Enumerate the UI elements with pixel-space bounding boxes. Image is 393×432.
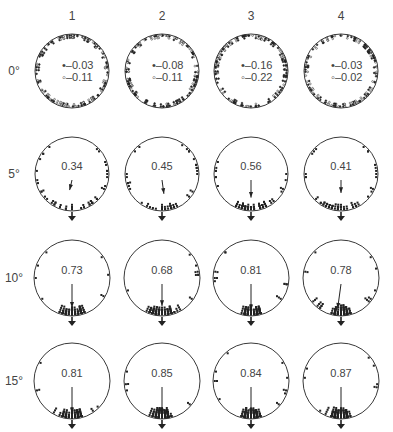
mean-vector-arrow-icon — [70, 408, 74, 414]
circular-plot: 0.87 — [303, 343, 379, 429]
mean-vector-length: 0.73 — [61, 264, 82, 276]
filled-mean-vector: •–0.08 — [152, 59, 183, 71]
mean-vector-arrow-icon — [160, 300, 164, 306]
mean-vector-arrow-icon — [249, 305, 253, 311]
mean-vector-arrow-icon — [339, 409, 343, 415]
circular-distribution-grid: •–0.03◦–0.11•–0.08◦–0.11•–0.16◦–0.22•–0.… — [0, 0, 393, 432]
direction-marker-icon — [337, 321, 345, 326]
mean-vector-arrow-icon — [161, 188, 165, 194]
mean-vector-length: 0.41 — [330, 160, 351, 172]
mean-vector-length: 0.81 — [240, 264, 261, 276]
direction-marker-icon — [68, 216, 76, 221]
filled-mean-vector: •–0.03 — [331, 59, 362, 71]
open-mean-vector: ◦–0.22 — [241, 71, 272, 83]
circular-plot: 0.78 — [303, 240, 379, 326]
circular-plot: 0.68 — [124, 240, 200, 326]
mean-vector-length: 0.85 — [151, 367, 172, 379]
mean-vector-length: 0.84 — [240, 367, 261, 379]
direction-marker-icon — [247, 321, 255, 326]
circular-plot: 0.34 — [35, 137, 109, 221]
mean-vector-arrow-icon — [339, 187, 343, 193]
open-mean-vector: ◦–0.02 — [331, 71, 362, 83]
mean-vector-length: 0.81 — [61, 367, 82, 379]
mean-vector-length: 0.68 — [151, 264, 172, 276]
direction-marker-icon — [158, 216, 166, 221]
circular-plot: 0.81 — [34, 343, 110, 429]
direction-marker-icon — [337, 216, 345, 221]
open-mean-vector: ◦–0.11 — [152, 71, 183, 83]
circular-plot: •–0.03◦–0.11 — [35, 34, 109, 108]
circular-plot: 0.45 — [125, 137, 199, 221]
mean-vector-arrow-icon — [160, 409, 164, 415]
open-mean-vector: ◦–0.11 — [62, 71, 93, 83]
direction-marker-icon — [247, 424, 255, 429]
filled-mean-vector: •–0.16 — [241, 59, 272, 71]
circular-plot: 0.85 — [124, 343, 200, 429]
circular-plot: 0.56 — [214, 137, 288, 221]
circular-plot: 0.41 — [304, 137, 378, 221]
direction-marker-icon — [158, 424, 166, 429]
mean-vector-length: 0.56 — [240, 160, 261, 172]
mean-vector-length: 0.34 — [61, 160, 82, 172]
direction-marker-icon — [337, 424, 345, 429]
mean-vector-arrow-icon — [70, 302, 74, 308]
circular-plot: 0.73 — [34, 240, 110, 326]
circular-plot: •–0.16◦–0.22 — [214, 34, 288, 108]
direction-marker-icon — [247, 216, 255, 221]
circular-plot: 0.81 — [213, 240, 289, 326]
mean-vector-length: 0.87 — [330, 367, 351, 379]
direction-marker-icon — [158, 321, 166, 326]
circular-plot: •–0.08◦–0.11 — [125, 34, 199, 108]
mean-vector-arrow-icon — [249, 408, 253, 414]
filled-mean-vector: •–0.03 — [62, 59, 93, 71]
mean-vector-arrow-icon — [249, 192, 253, 198]
mean-vector-length: 0.45 — [151, 160, 172, 172]
mean-vector-length: 0.78 — [330, 264, 351, 276]
circular-plot: •–0.03◦–0.02 — [304, 34, 378, 108]
direction-marker-icon — [68, 321, 76, 326]
direction-marker-icon — [68, 424, 76, 429]
circular-plot: 0.84 — [213, 343, 289, 429]
